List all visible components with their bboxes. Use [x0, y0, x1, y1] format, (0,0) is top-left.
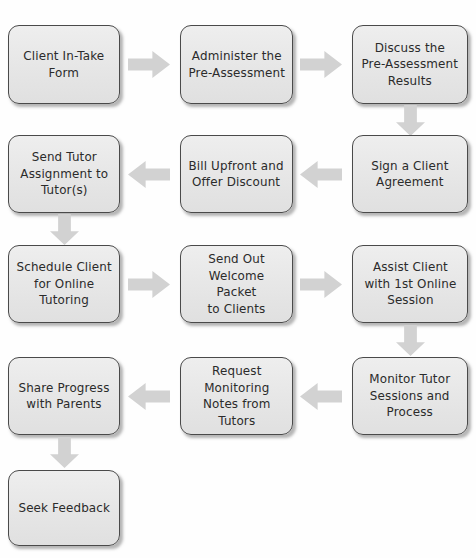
arrow-down-icon	[396, 325, 425, 356]
arrow-left-icon	[128, 383, 170, 410]
node-label: Send Out Welcome Packet to Clients	[188, 251, 286, 317]
process-node-send-welcome-packet[interactable]: Send Out Welcome Packet to Clients	[180, 245, 293, 323]
process-node-schedule-client-online-tutoring[interactable]: Schedule Client for Online Tutoring	[8, 245, 120, 323]
node-label: Administer the Pre-Assessment	[188, 48, 285, 81]
node-label: Seek Feedback	[18, 500, 110, 517]
arrow-right-icon	[300, 51, 342, 78]
arrow-down-icon	[396, 105, 425, 136]
arrow-right-icon	[300, 271, 342, 298]
arrow-down-icon	[50, 437, 79, 468]
node-label: Share Progress with Parents	[18, 380, 109, 413]
process-node-client-in-take-form[interactable]: Client In-Take Form	[8, 25, 120, 104]
node-label: Sign a Client Agreement	[371, 158, 448, 191]
node-label: Send Tutor Assignment to Tutor(s)	[20, 149, 108, 199]
node-label: Monitor Tutor Sessions and Process	[370, 371, 451, 421]
node-label: Schedule Client for Online Tutoring	[16, 259, 111, 309]
process-node-share-progress-with-parents[interactable]: Share Progress with Parents	[8, 357, 120, 435]
process-node-sign-client-agreement[interactable]: Sign a Client Agreement	[352, 135, 468, 213]
process-node-send-tutor-assignment[interactable]: Send Tutor Assignment to Tutor(s)	[8, 135, 120, 213]
process-node-assist-client-first-online-session[interactable]: Assist Client with 1st Online Session	[352, 245, 468, 323]
process-node-request-monitoring-notes[interactable]: Request Monitoring Notes from Tutors	[180, 357, 293, 435]
arrow-left-icon	[300, 161, 342, 188]
node-label: Client In-Take Form	[23, 48, 104, 81]
arrow-left-icon	[300, 383, 342, 410]
arrow-down-icon	[50, 214, 79, 245]
process-node-seek-feedback[interactable]: Seek Feedback	[8, 470, 120, 546]
arrow-left-icon	[128, 161, 170, 188]
process-node-bill-upfront-offer-discount[interactable]: Bill Upfront and Offer Discount	[180, 135, 293, 213]
node-label: Discuss the Pre-Assessment Results	[362, 40, 459, 90]
node-label: Request Monitoring Notes from Tutors	[203, 363, 270, 429]
node-label: Assist Client with 1st Online Session	[364, 259, 456, 309]
arrow-right-icon	[128, 51, 170, 78]
process-node-discuss-pre-assessment-results[interactable]: Discuss the Pre-Assessment Results	[352, 25, 468, 104]
process-node-administer-pre-assessment[interactable]: Administer the Pre-Assessment	[180, 25, 293, 104]
process-node-monitor-tutor-sessions[interactable]: Monitor Tutor Sessions and Process	[352, 357, 468, 435]
arrow-right-icon	[128, 271, 170, 298]
node-label: Bill Upfront and Offer Discount	[189, 158, 284, 191]
flowchart-canvas: Client In-Take Form Administer the Pre-A…	[0, 0, 476, 558]
